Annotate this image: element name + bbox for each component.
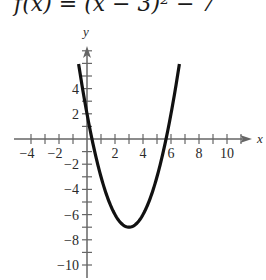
y-axis-label: y [81,24,89,39]
y-tick-label: −4 [64,182,79,197]
y-tick-label: −10 [57,258,79,273]
x-tick-label: 10 [220,146,234,161]
y-tick-label: −6 [64,208,79,223]
x-tick-label: −4 [20,146,35,161]
y-tick-label: 4 [72,82,79,97]
x-tick-label: 4 [140,146,147,161]
chart-plot: xy−4−2246810−10−8−6−4−224 [0,0,266,280]
y-tick-label: −2 [64,157,79,172]
function-curve [79,64,180,227]
x-axis-label: x [256,131,263,146]
x-tick-label: 2 [112,146,119,161]
y-tick-label: −8 [64,233,79,248]
x-tick-label: 6 [168,146,175,161]
y-tick-label: 2 [72,107,79,122]
x-tick-label: −2 [48,146,63,161]
x-tick-label: 8 [196,146,203,161]
